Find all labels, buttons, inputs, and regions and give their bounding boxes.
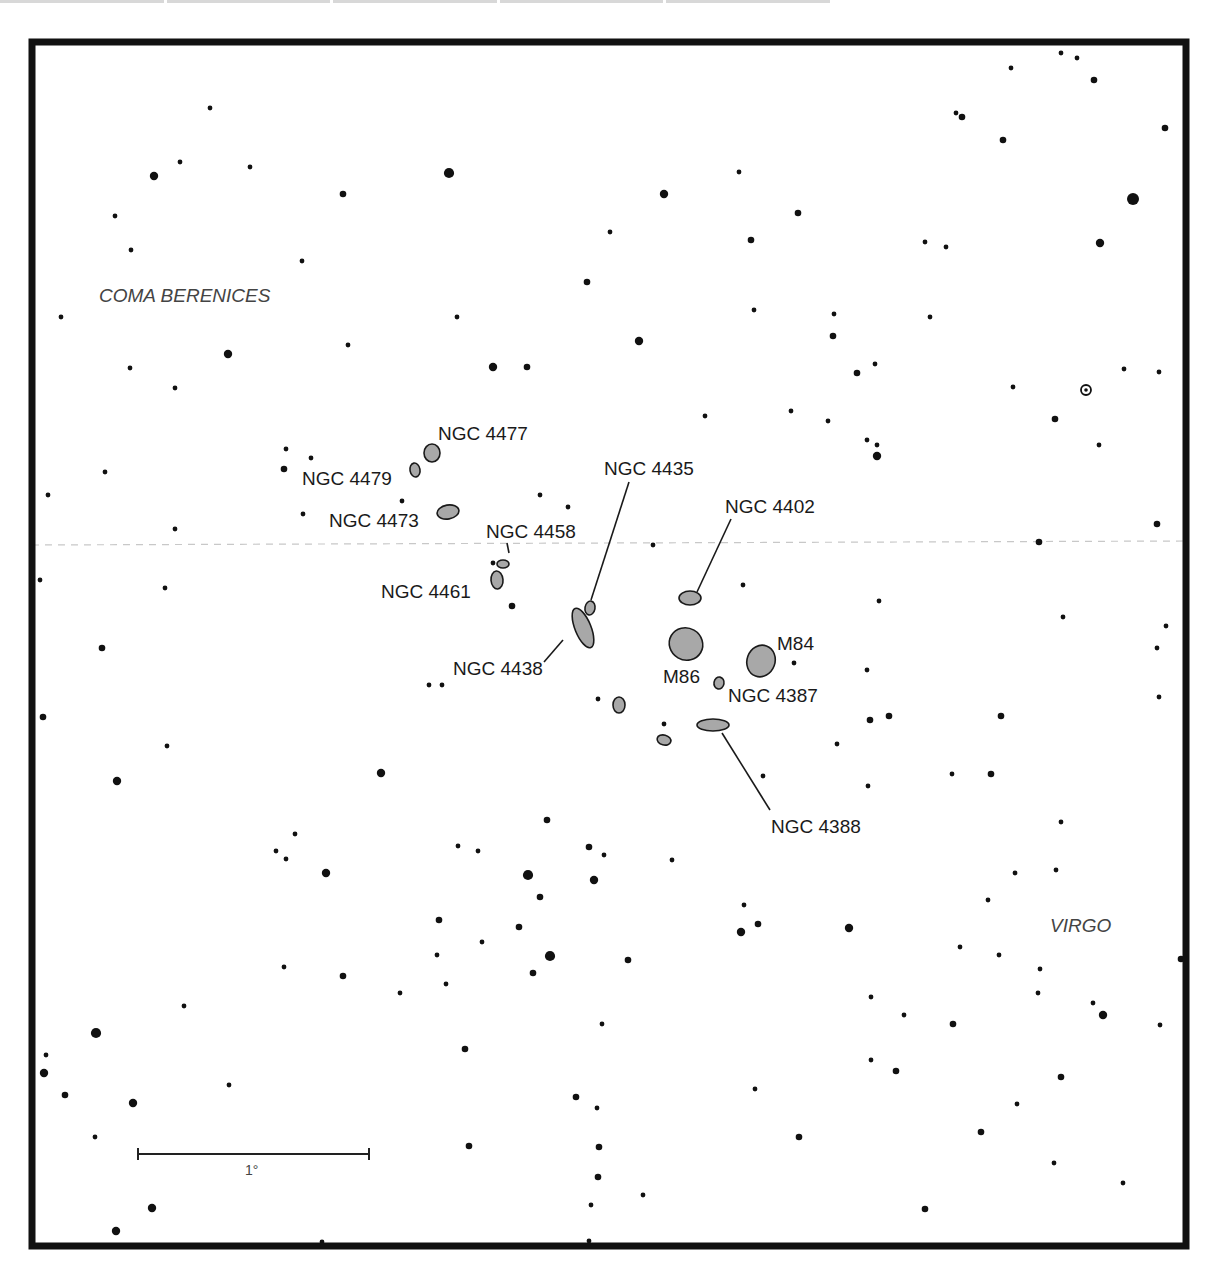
star: [40, 1069, 48, 1077]
star: [923, 240, 928, 245]
star: [462, 1046, 469, 1053]
star: [742, 903, 747, 908]
star: [922, 1206, 929, 1213]
galaxy-ngc-4388[interactable]: [697, 719, 729, 731]
star: [436, 917, 443, 924]
star: [753, 1087, 758, 1092]
star: [455, 315, 460, 320]
star: [737, 928, 745, 936]
star: [523, 870, 533, 880]
star: [544, 817, 551, 824]
star: [224, 350, 232, 358]
star: [113, 214, 118, 219]
constellation-label-virgo: VIRGO: [1050, 915, 1111, 936]
star: [340, 191, 347, 198]
star: [129, 1099, 137, 1107]
scale-bar-label: 1°: [245, 1162, 258, 1178]
galaxy-label-ngc-4388: NGC 4388: [771, 816, 861, 837]
star: [586, 844, 593, 851]
star: [755, 921, 762, 928]
star: [573, 1094, 580, 1101]
galaxy-label-m86: M86: [663, 666, 700, 687]
star: [1015, 1102, 1020, 1107]
star: [516, 924, 523, 931]
star: [44, 1053, 49, 1058]
star: [1009, 66, 1014, 71]
star: [1059, 820, 1064, 825]
star: [545, 951, 555, 961]
star: [590, 876, 598, 884]
star: [178, 160, 183, 165]
star: [596, 1144, 603, 1151]
star: [476, 849, 481, 854]
star: [456, 844, 461, 849]
star: [748, 237, 755, 244]
star: [99, 645, 106, 652]
star: [1059, 51, 1064, 56]
star: [163, 586, 168, 591]
star: [600, 1022, 605, 1027]
star: [466, 1143, 473, 1150]
star: [1075, 56, 1080, 61]
star: [38, 578, 43, 583]
galaxy-label-ngc-4458: NGC 4458: [486, 521, 576, 542]
galaxy-label-ngc-4479: NGC 4479: [302, 468, 392, 489]
star: [997, 953, 1002, 958]
star: [1052, 1161, 1057, 1166]
star: [608, 230, 613, 235]
star: [1158, 1023, 1163, 1028]
star: [660, 190, 668, 198]
star: [830, 333, 837, 340]
star: [988, 771, 995, 778]
star: [282, 965, 287, 970]
star: [113, 777, 121, 785]
star: [869, 1058, 874, 1063]
star: [1097, 443, 1102, 448]
star: [1058, 1074, 1065, 1081]
star: [1054, 868, 1059, 873]
star: [998, 713, 1005, 720]
star: [538, 493, 543, 498]
star: [893, 1068, 900, 1075]
star: [377, 769, 385, 777]
star: [1052, 416, 1059, 423]
galaxy-label-ngc-4438: NGC 4438: [453, 658, 543, 679]
star: [796, 1134, 803, 1141]
star: [1099, 1011, 1107, 1019]
star: [400, 499, 405, 504]
star: [173, 386, 178, 391]
star: [530, 970, 537, 977]
star: [635, 337, 643, 345]
star: [128, 366, 133, 371]
star: [112, 1227, 120, 1235]
star: [1121, 1181, 1126, 1186]
galaxy-ngc-4477[interactable]: [424, 444, 440, 462]
star: [1061, 615, 1066, 620]
star: [1091, 77, 1098, 84]
star: [978, 1129, 985, 1136]
galaxy-ngc-4402[interactable]: [679, 591, 701, 605]
star: [595, 1174, 602, 1181]
star: [1038, 967, 1043, 972]
star: [165, 744, 170, 749]
star: [986, 898, 991, 903]
star: [491, 561, 496, 566]
star: [865, 438, 870, 443]
galaxy-label-m84: M84: [777, 633, 814, 654]
star: [93, 1135, 98, 1140]
star: [950, 772, 955, 777]
chart-frame: [32, 42, 1186, 1246]
star: [284, 447, 289, 452]
star: [954, 111, 959, 116]
galaxy-ngc-4458[interactable]: [497, 560, 509, 568]
star: [566, 505, 571, 510]
star: [944, 245, 949, 250]
star: [737, 170, 742, 175]
star: [62, 1092, 69, 1099]
star: [248, 165, 253, 170]
star: [1155, 646, 1160, 651]
star: [651, 543, 656, 548]
galaxy-unlabeled-1[interactable]: [613, 697, 625, 713]
star: [208, 106, 213, 111]
star: [1000, 137, 1007, 144]
